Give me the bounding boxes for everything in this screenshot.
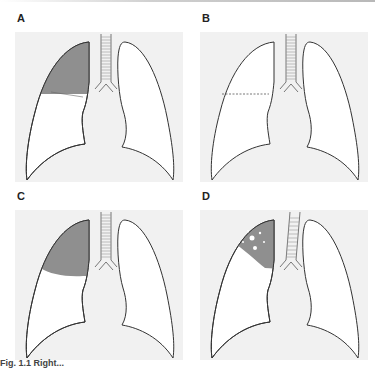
trachea-icon	[95, 212, 117, 270]
trachea-icon	[280, 212, 302, 270]
opacity-region	[15, 32, 115, 94]
opacity-region	[15, 210, 115, 276]
figure-caption: Fig. 1.1 Right...	[0, 358, 64, 368]
panel-label-d: D	[202, 190, 210, 202]
lungs-diagram-c	[15, 210, 183, 360]
trachea-icon	[95, 34, 117, 92]
lungs-diagram-b	[200, 32, 368, 182]
trachea-icon	[280, 34, 302, 92]
panel-b: B	[200, 12, 370, 182]
panel-label-b: B	[202, 12, 210, 24]
panel-label-a: A	[17, 12, 25, 24]
panel-label-c: C	[17, 190, 25, 202]
lungs-diagram-d	[200, 210, 368, 360]
panel-c: C	[15, 190, 185, 360]
panel-a: A	[15, 12, 185, 182]
panel-d: D	[200, 190, 370, 360]
lungs-diagram-a	[15, 32, 183, 182]
top-rule	[0, 0, 375, 2]
